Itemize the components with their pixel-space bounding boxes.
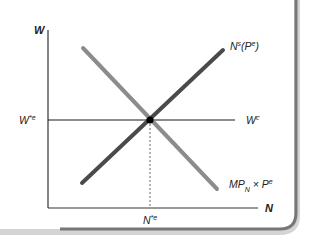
equilibrium-point (146, 116, 153, 123)
x-axis-label: N (265, 202, 274, 214)
panel-border (60, 0, 296, 229)
equilibrium-wage-label: W*e (19, 114, 36, 126)
diagram-frame: W N W*e N*e Wc Ns(Pe) MPN × Pe (0, 0, 310, 241)
contract-wage-label: Wc (246, 114, 260, 126)
labor-market-diagram: W N W*e N*e Wc Ns(Pe) MPN × Pe (0, 0, 310, 241)
equilibrium-employment-label: N*e (143, 214, 157, 226)
labor-demand-label: MPN × Pe (229, 178, 273, 193)
y-axis-label: W (34, 24, 46, 36)
labor-supply-label: Ns(Pe) (230, 40, 259, 52)
